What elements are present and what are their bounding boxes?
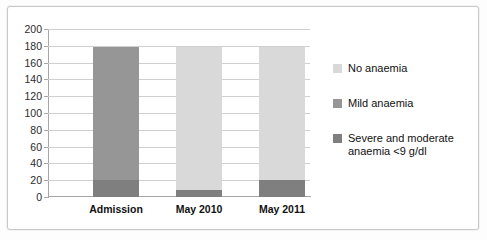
y-axis-tick [44, 63, 48, 64]
y-axis-tick [44, 96, 48, 97]
bar-may-2011[interactable] [259, 47, 305, 197]
legend-swatch-icon [333, 99, 342, 108]
legend-label: No anaemia [348, 62, 407, 75]
y-axis-tick-label: 40 [30, 158, 42, 168]
legend-label: Severe and moderate anaemia <9 g/dl [348, 132, 483, 158]
legend-swatch-icon [333, 134, 342, 143]
bar-segment [176, 47, 222, 190]
y-axis-tick-label: 60 [30, 142, 42, 152]
bar-segment [259, 180, 305, 197]
y-axis-tick [44, 29, 48, 30]
bar-segment [93, 180, 139, 197]
y-axis-tick [44, 130, 48, 131]
bar-admission[interactable] [93, 47, 139, 197]
y-axis-tick-label: 100 [24, 108, 42, 118]
chart-legend: No anaemiaMild anaemiaSevere and moderat… [333, 62, 483, 180]
y-axis-tick-label: 180 [24, 41, 42, 51]
legend-swatch-icon [333, 64, 342, 73]
y-axis-tick [44, 197, 48, 198]
x-axis-label: May 2011 [242, 203, 322, 215]
y-axis-tick-label: 120 [24, 91, 42, 101]
bar-segment [259, 47, 305, 180]
gridline [48, 29, 310, 30]
legend-item[interactable]: No anaemia [333, 62, 483, 75]
y-axis-tick [44, 46, 48, 47]
chart-page: 200180160140120100806040200 No anaemiaMi… [0, 0, 487, 240]
bar-segment [176, 190, 222, 197]
y-axis-tick-label: 200 [24, 24, 42, 34]
plot-area [48, 29, 310, 197]
y-axis-tick-label: 0 [36, 192, 42, 202]
x-axis-label: May 2010 [159, 203, 239, 215]
bar-segment [93, 47, 139, 180]
y-axis-tick [44, 180, 48, 181]
chart-frame: 200180160140120100806040200 No anaemiaMi… [7, 6, 479, 230]
y-axis-tick-label: 80 [30, 125, 42, 135]
y-axis-tick-label: 20 [30, 175, 42, 185]
y-axis-tick [44, 163, 48, 164]
x-axis-label: Admission [76, 203, 156, 215]
y-axis-labels: 200180160140120100806040200 [12, 29, 42, 197]
y-axis-tick [44, 147, 48, 148]
legend-item[interactable]: Severe and moderate anaemia <9 g/dl [333, 132, 483, 158]
y-axis-tick [44, 79, 48, 80]
bar-may-2010[interactable] [176, 47, 222, 197]
y-axis-tick-label: 140 [24, 74, 42, 84]
y-axis-tick [44, 113, 48, 114]
y-axis-tick-label: 160 [24, 58, 42, 68]
legend-label: Mild anaemia [348, 97, 413, 110]
legend-item[interactable]: Mild anaemia [333, 97, 483, 110]
